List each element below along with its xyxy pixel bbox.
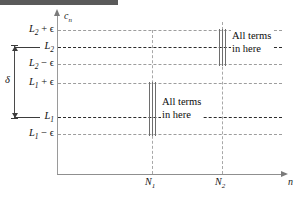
callout-upper-line2: in here	[232, 43, 271, 56]
x-axis-arrow-icon	[281, 171, 288, 177]
callout-lower-line1: All terms	[162, 96, 201, 109]
term-bundle-upper	[219, 29, 227, 66]
callout-upper-line1: All terms	[232, 30, 271, 43]
x-tick-label-sub: 2	[222, 182, 226, 190]
x-tick-label-N2: N2	[215, 176, 225, 190]
y-axis-line	[57, 13, 58, 175]
level-label-row-L2-plus-epsilon: L2 + ϵ	[0, 23, 54, 37]
term-tick	[219, 29, 220, 66]
level-label-sub: 1	[50, 115, 54, 124]
callout-lower-line2: in here	[162, 109, 201, 122]
y-axis-arrow-icon	[54, 9, 60, 16]
level-label-L2-plus-epsilon: L2 + ϵ	[29, 23, 54, 37]
x-tick-label-N1: N1	[145, 176, 155, 190]
delta-arrow-down-icon	[12, 113, 18, 118]
term-tick	[222, 29, 223, 66]
term-tick	[152, 82, 153, 136]
limit-diagram-figure: cn n L2 + ϵ L2 L2 − ϵ L1 + ϵ L1 L1 − ϵ δ…	[0, 0, 303, 198]
x-axis-line	[57, 174, 283, 175]
level-label-row-L1-minus-epsilon: L1 − ϵ	[0, 127, 54, 141]
level-label-L2-minus-epsilon: L2 − ϵ	[29, 57, 54, 71]
level-label-suffix: − ϵ	[39, 57, 54, 68]
term-tick	[225, 29, 226, 66]
level-label-L1-plus-epsilon: L1 + ϵ	[29, 76, 54, 90]
level-label-connector-L2	[15, 47, 40, 48]
x-tick-label-main: N	[215, 176, 222, 187]
delta-measure-line	[14, 46, 15, 118]
term-bundle-lower	[149, 82, 157, 136]
level-label-sub: 2	[50, 45, 54, 54]
callout-upper: All terms in here	[231, 30, 272, 55]
top-rule-divider	[0, 0, 118, 5]
level-label-row-L2: L2	[0, 40, 54, 54]
callout-lower: All terms in here	[161, 96, 202, 121]
level-label-connector-L1	[15, 117, 40, 118]
level-label-suffix: − ϵ	[39, 127, 54, 138]
x-axis-label: n	[288, 176, 293, 187]
level-label-L2: L2	[44, 40, 54, 54]
delta-label: δ	[5, 74, 10, 85]
level-label-L1-minus-epsilon: L1 − ϵ	[29, 127, 54, 141]
term-tick	[149, 82, 150, 136]
delta-cap-bottom	[11, 118, 18, 119]
level-line-L2-minus-epsilon	[58, 64, 282, 65]
level-line-L1-minus-epsilon	[58, 134, 282, 135]
y-axis-label: cn	[64, 10, 72, 24]
y-axis-label-sub: n	[68, 16, 72, 24]
x-tick-label-main: N	[145, 176, 152, 187]
delta-arrow-up-icon	[12, 46, 18, 51]
level-label-L1: L1	[44, 110, 54, 124]
level-line-L1-plus-epsilon	[58, 83, 282, 84]
level-label-suffix: + ϵ	[39, 76, 54, 87]
level-label-row-L1: L1	[0, 110, 54, 124]
x-tick-label-sub: 1	[152, 182, 156, 190]
term-tick	[155, 82, 156, 136]
level-label-row-L2-minus-epsilon: L2 − ϵ	[0, 57, 54, 71]
level-label-suffix: + ϵ	[39, 23, 54, 34]
